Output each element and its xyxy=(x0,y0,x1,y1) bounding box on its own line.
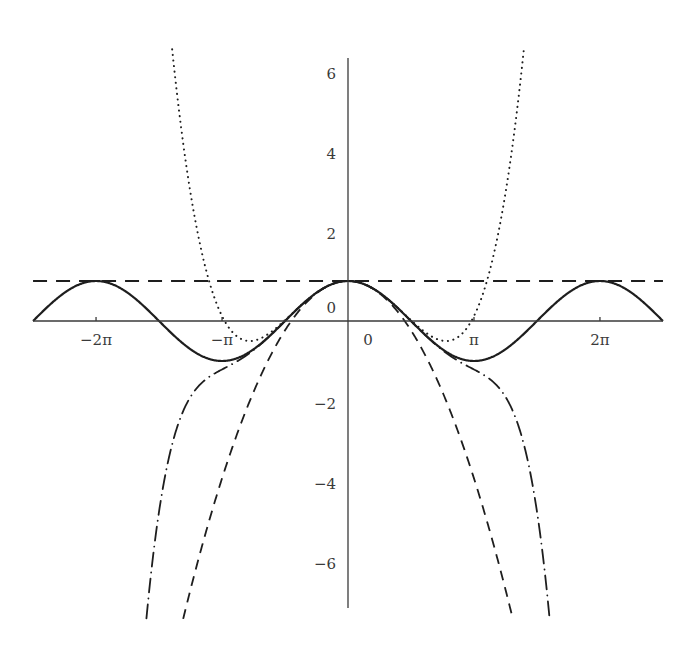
y-tick-label: 6 xyxy=(326,65,336,83)
x-tick-label: 2π xyxy=(590,331,610,349)
y-tick-label: −6 xyxy=(314,555,336,573)
y-tick-label: 0 xyxy=(326,299,336,317)
y-tick-label: −2 xyxy=(314,395,336,413)
y-tick-label: −4 xyxy=(314,475,336,493)
taylor-cosine-chart: −2π−π0π2π 6420−2−4−6 xyxy=(0,0,700,659)
y-axis-ticks: 6420−2−4−6 xyxy=(314,65,336,573)
y-tick-label: 2 xyxy=(326,225,336,243)
x-tick-label: 0 xyxy=(363,331,373,349)
x-tick-label: −π xyxy=(211,331,234,349)
y-tick-label: 4 xyxy=(326,145,336,163)
x-tick-label: π xyxy=(469,331,479,349)
x-tick-label: −2π xyxy=(80,331,112,349)
